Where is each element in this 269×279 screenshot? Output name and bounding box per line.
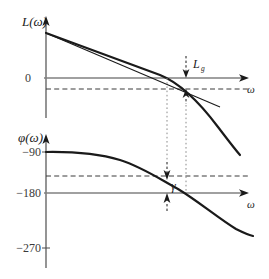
phase-response-curve [46, 152, 253, 236]
phase-tick-label-minus-180: −180 [16, 186, 41, 200]
magnitude-zero-tick-label: 0 [25, 71, 31, 85]
bode-diagram-figure: L(ω) ω 0 L g [0, 0, 269, 279]
phase-margin-label: γ [171, 179, 176, 193]
magnitude-y-axis [42, 16, 49, 118]
gain-margin-label: L g [192, 57, 205, 73]
phase-x-axis [44, 189, 249, 197]
phase-tick-label-minus-270: −270 [16, 241, 41, 255]
magnitude-y-axis-label: L(ω) [21, 14, 47, 29]
phase-margin-indicator [164, 162, 171, 212]
phase-y-axis-label: φ(ω) [18, 130, 43, 145]
svg-text:g: g [201, 64, 205, 73]
phase-subplot: φ(ω) ω −90 −180 −270 γ [16, 130, 255, 268]
magnitude-subplot: L(ω) ω 0 L g [21, 14, 255, 155]
phase-x-axis-label: ω [247, 198, 255, 210]
svg-text:L: L [192, 57, 200, 71]
phase-tick-label-minus-90: −90 [22, 145, 41, 159]
bode-diagram-svg: L(ω) ω 0 L g [0, 0, 269, 279]
magnitude-x-axis-label: ω [247, 83, 255, 95]
magnitude-response-curve [46, 33, 240, 155]
gain-margin-indicator [183, 56, 190, 104]
